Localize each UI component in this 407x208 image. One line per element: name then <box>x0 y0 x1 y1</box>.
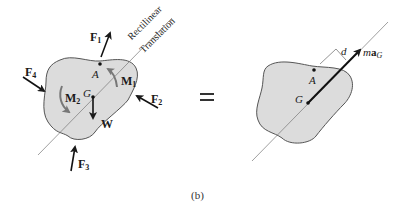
force-f3-label: F3 <box>78 158 89 172</box>
moment-m1-label: M1 <box>121 75 136 89</box>
point-a-dot <box>98 62 102 66</box>
distance-d-label: d <box>341 46 347 57</box>
rigid-body-shape-right <box>257 62 353 143</box>
point-a-label-right: A <box>309 75 316 86</box>
point-a-dot-right <box>312 68 316 72</box>
force-f1-arrow <box>101 33 110 57</box>
dimension-d-left-tick <box>320 49 336 64</box>
force-f1-label: F1 <box>90 31 101 45</box>
force-f3-arrow <box>71 147 75 171</box>
force-f2-label: F2 <box>151 93 162 107</box>
point-g-label: G <box>83 88 91 99</box>
equals-sign <box>200 93 214 101</box>
point-a-label: A <box>92 69 99 80</box>
inertia-vector-label: maG <box>363 47 382 60</box>
figure-caption: (b) <box>191 190 204 201</box>
kinetic-diagram <box>252 22 388 161</box>
point-g-label-right: G <box>295 94 303 105</box>
force-f4-label: F4 <box>25 66 36 80</box>
moment-m2-label: M2 <box>65 92 80 106</box>
weight-label: W <box>101 118 113 130</box>
rigid-body-translation-figure <box>0 0 407 208</box>
